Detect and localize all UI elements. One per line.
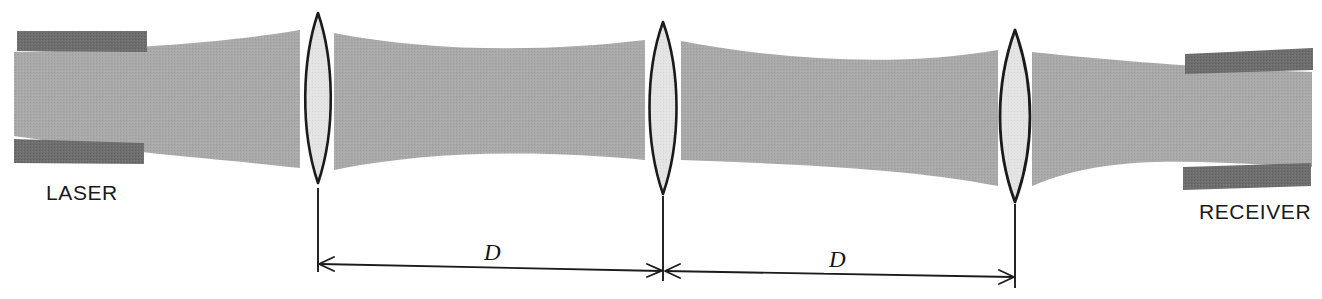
lens-3 [1000,30,1030,202]
laser-housing-bottom-bar [14,139,144,164]
receiver-housing-bottom-bar [1183,163,1311,190]
lens-2 [650,22,677,194]
beam-segment-lens1-to-lens2 [334,33,645,170]
beam-segment-lens2-to-lens3 [681,41,998,186]
optical-diagram [0,0,1322,299]
lens-1 [305,13,331,183]
laser-label: LASER [46,181,118,205]
dimension-label-d2: D [824,247,851,273]
laser-housing-top-bar [17,31,147,52]
receiver-label: RECEIVER [1199,200,1311,224]
receiver-housing-top-bar [1185,48,1313,74]
figure-canvas: LASER RECEIVER D D [0,0,1322,299]
dimension-label-d1: D [479,240,506,266]
dimension-annotations [318,188,1015,288]
